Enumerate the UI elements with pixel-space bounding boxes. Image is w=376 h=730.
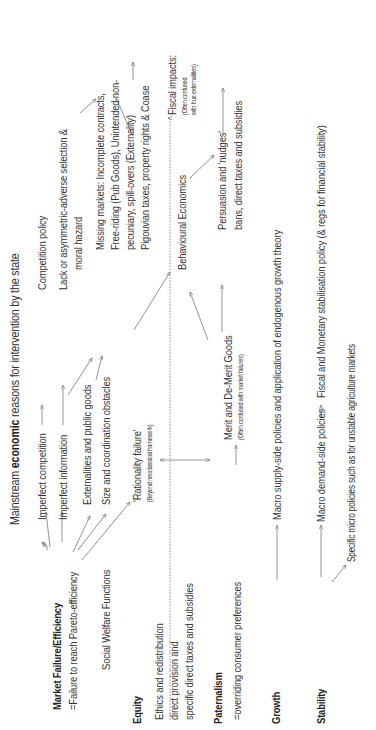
market-failure-label: Market Failure/Efficiency (51, 603, 64, 710)
stability-label: Stability (315, 689, 328, 724)
missing-markets-line-4: Pigouvian taxes, property rights & Coase (139, 86, 152, 250)
equity-label: Equity (131, 696, 144, 724)
merit-goods-label: Merit and De-Merit Goods (222, 335, 235, 440)
social-welfare-label: Social Welfare Functions (100, 570, 113, 670)
equity-line-3: specific direct taxes and subsidies (183, 583, 196, 720)
growth-label: Growth (270, 692, 283, 724)
information-remedy-line-1: Lack or asymmetric-adverse selection & (57, 129, 70, 290)
paternalism-subtitle: =overriding consumer preferences (231, 582, 244, 720)
fiscal-impacts-note-2: with true externalities) (190, 64, 198, 115)
equity-line-1: Ethics and redistribution (153, 623, 166, 720)
persuasion-line-2: bans, direct taxes and subsidies (232, 101, 245, 230)
paternalism-label: Paternalism (212, 672, 225, 724)
information-remedy-line-2: moral hazard (72, 217, 85, 270)
fiscal-impacts-note-1: (Often confused (181, 78, 189, 115)
rationality-failure-note: (Beyond neoclassical framework) (146, 424, 154, 502)
stability-fiscal-policy: Fiscal and Monetary stabilisation policy… (315, 125, 328, 398)
market-failure-item: Externalities and public goods (81, 385, 94, 505)
diagram-canvas: Mainstream economic reasons for interven… (0, 0, 376, 730)
title-bold: economic (7, 420, 22, 468)
rationality-failure-label: 'Rationality failure' (131, 430, 144, 502)
missing-markets-line-3: pecuniary, spill-overs (Externality) (124, 115, 137, 250)
competition-policy: Competition policy (36, 216, 49, 290)
title-prefix: Mainstream (7, 468, 22, 525)
title-suffix: reasons for intervention by the state (7, 253, 22, 419)
equity-line-2: direct provision and (168, 641, 181, 720)
market-failure-subtitle: =Failure to reach Pareto-efficiency (67, 572, 80, 710)
stability-micro-policy: Specific micro policies such as for unst… (345, 344, 358, 562)
growth-policy: Macro supply-side policies and applicati… (271, 230, 284, 520)
missing-markets-line-1: Missing markets: Incomplete contracts, (94, 93, 107, 250)
market-failure-item: Imperfect information (57, 435, 70, 520)
behavioural-economics: Behavioural Economics (176, 175, 189, 270)
merit-goods-note: (Often confused with market failures) (237, 354, 245, 440)
market-failure-item: Size and coordination obstacles (100, 377, 113, 505)
persuasion-line-1: Persuasion and 'nudges' (216, 131, 229, 230)
market-failure-item: Imperfect competition (36, 433, 49, 520)
fiscal-impacts-label: Fiscal impacts: (166, 55, 179, 115)
missing-markets-line-2: Free-riding (Pub Goods), Unintended non- (109, 80, 122, 250)
stability-demand-policy: Macro demand-side policies (315, 409, 328, 522)
diagram-title: Mainstream economic reasons for interven… (7, 253, 22, 525)
